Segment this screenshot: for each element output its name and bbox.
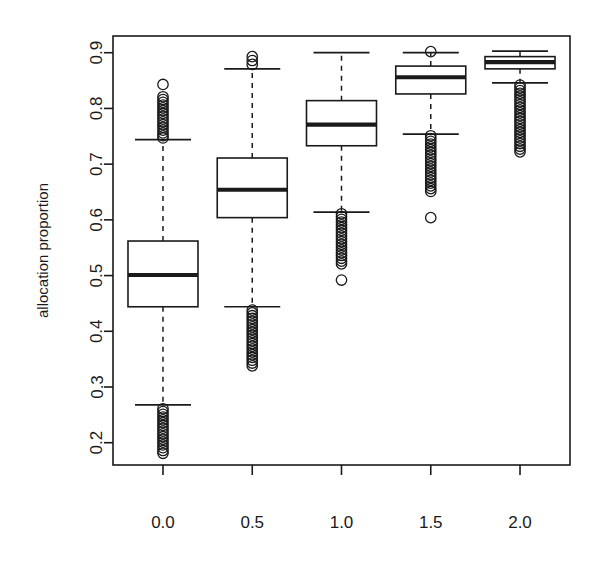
x-tick-label: 1.5: [419, 513, 443, 532]
y-tick-label: 0.2: [88, 431, 107, 455]
y-tick-label: 0.5: [88, 264, 107, 288]
boxplot-group: [485, 51, 555, 157]
boxplot-group: [217, 51, 287, 371]
y-tick-label: 0.3: [88, 375, 107, 399]
y-tick-label: 0.6: [88, 208, 107, 232]
y-tick-label: 0.8: [88, 97, 107, 121]
boxplot-canvas: 0.20.30.40.50.60.70.80.90.00.51.01.52.0a…: [0, 0, 616, 572]
boxplot-figure: 0.20.30.40.50.60.70.80.90.00.51.01.52.0a…: [0, 0, 616, 572]
outlier-point: [336, 275, 346, 285]
x-axis-ticks: 0.00.51.01.52.0: [151, 465, 532, 532]
outlier-point: [426, 212, 436, 222]
outlier-point: [158, 79, 168, 89]
x-tick-label: 1.0: [330, 513, 354, 532]
y-tick-label: 0.4: [88, 319, 107, 343]
y-axis-ticks: 0.20.30.40.50.60.70.80.9: [88, 41, 114, 455]
x-tick-label: 0.5: [240, 513, 264, 532]
x-tick-label: 2.0: [508, 513, 532, 532]
boxplot-group: [307, 53, 377, 286]
y-tick-label: 0.9: [88, 41, 107, 65]
boxplot-group: [128, 79, 198, 458]
box-iqr: [396, 66, 466, 94]
y-tick-label: 0.7: [88, 152, 107, 176]
boxplot-group: [396, 46, 466, 222]
y-axis-title: allocation proportion: [34, 183, 51, 318]
x-tick-label: 0.0: [151, 513, 175, 532]
